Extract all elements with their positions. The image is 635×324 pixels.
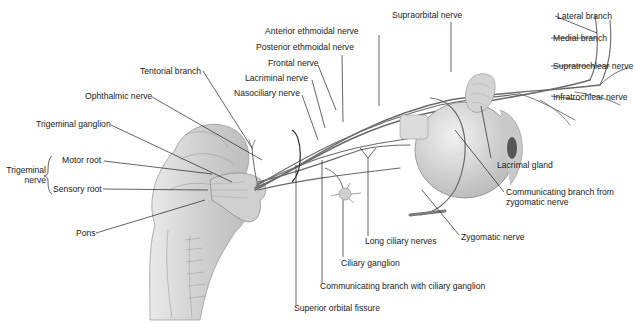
label-zygomatic-nerve: Zygomatic nerve [461, 232, 525, 242]
label-supratrochlear-nerve: Supratrochlear nerve [553, 61, 633, 71]
label-communicating-branch-zygomatic-line2: zygomatic nerve [506, 197, 569, 207]
label-lacriminal-nerve: Lacriminal nerve [245, 73, 308, 83]
lacrimal-gland-shape [465, 74, 495, 113]
label-supraorbital-nerve: Supraorbital nerve [392, 10, 462, 20]
label-trigeminal-nerve-line1: Trigeminal [4, 165, 46, 175]
eyeball [400, 98, 522, 215]
label-long-ciliary-nerves: Long ciliary nerves [365, 236, 437, 246]
label-infratrochlear-nerve: Infratrochlear nerve [553, 92, 628, 102]
label-communicating-branch-ciliary: Communicating branch with ciliary gangli… [320, 281, 485, 291]
label-frontal-nerve: Frontal nerve [268, 58, 319, 68]
label-superior-orbital-fissure: Superior orbital fissure [294, 303, 380, 313]
label-nasociliary-nerve: Nasociliary nerve [234, 88, 300, 98]
trigeminal-ophthalmic-diagram: Anterior ethmoidal nerve Supraorbital ne… [0, 0, 635, 324]
brainstem [150, 124, 250, 320]
label-tentorial-branch: Tentorial branch [140, 66, 201, 76]
label-anterior-ethmoidal-nerve: Anterior ethmoidal nerve [265, 26, 359, 36]
label-trigeminal-ganglion: Trigeminal ganglion [36, 119, 111, 129]
label-lateral-branch: Lateral branch [557, 11, 612, 21]
label-medial-branch: Medial branch [553, 33, 607, 43]
label-lacrimal-gland: Lacrimal gland [497, 160, 553, 170]
label-ciliary-ganglion: Ciliary ganglion [341, 258, 400, 268]
label-pons: Pons [76, 228, 96, 238]
label-communicating-branch-zygomatic-line1: Communicating branch from [506, 187, 614, 197]
label-sensory-root: Sensory root [53, 184, 102, 194]
label-trigeminal-nerve-line2: nerve [4, 175, 46, 185]
label-ophthalmic-nerve: Ophthalmic nerve [85, 91, 152, 101]
label-posterior-ethmoidal-nerve: Posterior ethmoidal nerve [256, 42, 354, 52]
label-motor-root: Motor root [62, 155, 101, 165]
